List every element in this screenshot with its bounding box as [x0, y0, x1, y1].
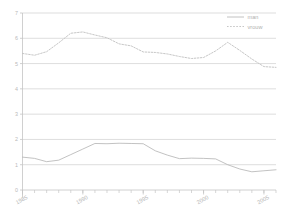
y-tick-label-2: 2	[15, 136, 18, 142]
x-tick-label-1990: 1990	[75, 194, 89, 205]
x-tick-label-2000: 2000	[196, 194, 210, 205]
x-tick-label-1995: 1995	[135, 194, 149, 205]
y-tick-label-6: 6	[15, 35, 18, 41]
tick-labels-group: 0123456719851990199520002005	[15, 10, 270, 205]
chart-canvas: 0123456719851990199520002005manvrouw	[0, 0, 282, 219]
x-tick-label-1985: 1985	[15, 194, 29, 205]
y-tick-label-5: 5	[15, 61, 18, 67]
gridlines-group	[23, 13, 277, 165]
y-tick-label-3: 3	[15, 111, 18, 117]
line-chart: 0123456719851990199520002005manvrouw	[0, 0, 282, 219]
y-tick-label-1: 1	[15, 162, 18, 168]
x-tick-label-2005: 2005	[256, 194, 270, 205]
axes-group	[20, 13, 276, 197]
legend-label-vrouw: vrouw	[248, 24, 264, 30]
y-tick-label-7: 7	[15, 10, 18, 16]
y-tick-label-4: 4	[15, 86, 18, 92]
legend: manvrouw	[227, 14, 263, 30]
legend-label-man: man	[248, 14, 259, 20]
series-group	[23, 32, 277, 172]
y-tick-label-0: 0	[15, 187, 18, 193]
series-line-vrouw	[23, 32, 277, 67]
series-line-man	[23, 143, 277, 172]
